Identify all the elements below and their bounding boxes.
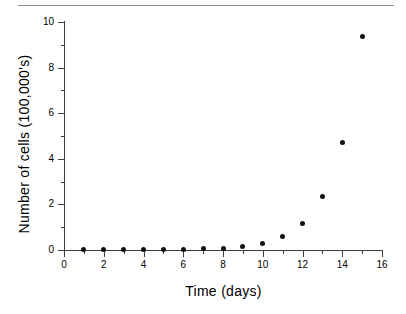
x-tick-label: 10 (257, 260, 268, 270)
x-tick-label: 14 (337, 260, 348, 270)
data-point (121, 247, 126, 252)
y-tick-major (58, 159, 64, 160)
x-tick-label: 0 (61, 260, 67, 270)
scatter-chart-figure: 0246810121416 0246810 Time (days) Number… (0, 0, 406, 314)
y-tick-label: 2 (48, 199, 54, 209)
x-tick-major (64, 251, 65, 257)
y-tick-label: 8 (48, 63, 54, 73)
x-tick-major (183, 251, 184, 257)
x-tick-label: 16 (376, 260, 387, 270)
data-point (340, 140, 345, 145)
y-tick-label: 6 (48, 108, 54, 118)
x-tick-minor (243, 251, 244, 254)
x-tick-major (342, 251, 343, 257)
y-axis-title: Number of cells (100,000's) (16, 24, 32, 264)
y-tick-minor (61, 90, 64, 91)
data-point (221, 246, 226, 251)
data-point (280, 234, 285, 239)
data-point (141, 247, 146, 252)
y-tick-minor (61, 227, 64, 228)
x-tick-label: 12 (297, 260, 308, 270)
x-tick-minor (283, 251, 284, 254)
x-tick-major (303, 251, 304, 257)
data-point (260, 241, 265, 246)
y-tick-minor (61, 182, 64, 183)
x-tick-minor (362, 251, 363, 254)
data-point (81, 247, 86, 252)
y-tick-label: 0 (48, 245, 54, 255)
y-axis-line (64, 21, 65, 251)
x-tick-label: 4 (141, 260, 147, 270)
data-point (161, 247, 166, 252)
x-axis-title: Time (days) (64, 283, 383, 299)
data-point (181, 247, 186, 252)
y-tick-major (58, 68, 64, 69)
x-tick-major (223, 251, 224, 257)
x-tick-major (263, 251, 264, 257)
data-point (101, 247, 106, 252)
x-tick-minor (203, 251, 204, 254)
y-tick-label: 4 (48, 154, 54, 164)
y-tick-minor (61, 45, 64, 46)
x-tick-minor (322, 251, 323, 254)
x-tick-major (382, 251, 383, 257)
data-point (360, 34, 365, 39)
y-tick-minor (61, 136, 64, 137)
data-point (320, 194, 325, 199)
x-tick-major (144, 251, 145, 257)
y-tick-major (58, 113, 64, 114)
y-tick-major (58, 204, 64, 205)
x-tick-label: 8 (220, 260, 226, 270)
y-tick-label: 10 (43, 17, 54, 27)
x-tick-label: 2 (101, 260, 107, 270)
x-tick-label: 6 (180, 260, 186, 270)
data-point (240, 244, 245, 249)
y-tick-major (58, 250, 64, 251)
y-tick-major (58, 22, 64, 23)
data-point (300, 221, 305, 226)
